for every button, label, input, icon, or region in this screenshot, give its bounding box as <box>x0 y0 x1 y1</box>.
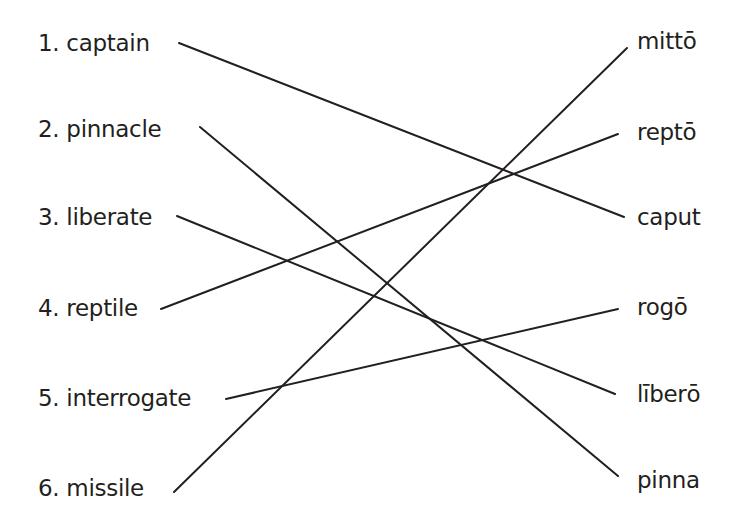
latin-term-caput: caput <box>637 206 700 229</box>
matching-diagram: 1. captain 2. pinnacle 3. liberate 4. re… <box>0 0 746 530</box>
connector-lines <box>0 0 746 530</box>
latin-term-pinna: pinna <box>637 469 700 492</box>
english-term-pinnacle: 2. pinnacle <box>38 118 161 141</box>
latin-term-repto: reptō <box>637 121 696 144</box>
english-term-interrogate: 5. interrogate <box>38 387 191 410</box>
link-reptile-repto <box>161 134 618 309</box>
english-term-reptile: 4. reptile <box>38 297 138 320</box>
english-term-liberate: 3. liberate <box>38 206 152 229</box>
link-captain-caput <box>179 43 624 217</box>
link-pinnacle-pinna <box>200 127 618 476</box>
link-liberate-libero <box>177 216 615 394</box>
latin-term-rogo: rogō <box>637 296 688 319</box>
english-term-missile: 6. missile <box>38 477 144 500</box>
latin-term-libero: līberō <box>637 383 700 406</box>
link-interrogate-rogo <box>226 309 618 399</box>
english-term-captain: 1. captain <box>38 32 150 55</box>
latin-term-mitto: mittō <box>637 30 696 53</box>
link-missile-mitto <box>174 48 627 492</box>
